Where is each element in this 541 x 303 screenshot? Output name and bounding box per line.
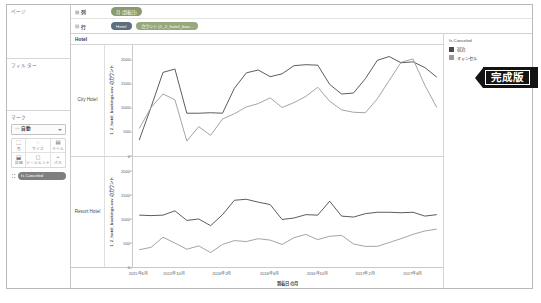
- marks-card-title: マーク: [11, 114, 66, 121]
- y-axis-ticks-top: 0500100015002000: [116, 45, 132, 156]
- marks-label-label: ラベル: [52, 147, 64, 151]
- columns-shelf[interactable]: ⊞ 列 月 (到着日): [71, 5, 532, 19]
- line-series: [139, 57, 437, 141]
- legend-swatch-stay: [449, 47, 454, 52]
- x-axis: 到着日 の月 2015年6月2015年10月2016年2月2016年6月2016…: [71, 267, 443, 288]
- pane-resort-hotel: Resort Hotel 1_2_hotel_bookings.csv のカウン…: [71, 157, 443, 268]
- detail-icon: ⬓: [16, 155, 21, 161]
- mark-type-dropdown[interactable]: 〰 自動: [11, 124, 66, 135]
- y-tick: 2000: [121, 168, 130, 173]
- viz-container: Hotel City Hotel 1_2_hotel_bookings.csv …: [71, 34, 532, 288]
- y-tick: 0: [128, 265, 130, 270]
- line-series: [139, 199, 437, 225]
- rows-icon: ⊟: [75, 23, 79, 29]
- x-tick: 2015年6月: [129, 270, 148, 276]
- marks-label-button[interactable]: ▤ ラベル: [51, 139, 65, 153]
- marks-size-button[interactable]: ◌ サイズ: [26, 139, 51, 153]
- marks-color-button[interactable]: ⬚ 色: [12, 139, 26, 153]
- color-icon: ⬚: [16, 140, 21, 146]
- chevron-down-icon: [58, 129, 62, 131]
- plot-city-hotel[interactable]: [132, 45, 443, 156]
- columns-icon: ⊞: [75, 9, 79, 15]
- rows-shelf-text: 行: [81, 23, 86, 30]
- legend-item-cancel[interactable]: キャンセル: [449, 55, 527, 61]
- shelves: ⊞ 列 月 (到着日) ⊟ 行 Hotel カウント (1_2_hotel_bo…: [71, 5, 532, 34]
- marks-color-label: 色: [17, 147, 21, 151]
- pages-card[interactable]: ページ: [7, 5, 70, 59]
- y-axis-ticks-bottom: 0500100015002000: [116, 157, 132, 268]
- line-mark-icon: 〰: [15, 127, 19, 132]
- x-tick: 2015年10月: [163, 270, 184, 276]
- pill-month-arrival[interactable]: 月 (到着日): [111, 7, 142, 16]
- line-series: [139, 59, 437, 141]
- legend-item-stay[interactable]: 宿泊: [449, 46, 527, 52]
- marks-path-label: パス: [54, 161, 62, 165]
- rows-shelf-label: ⊟ 行: [75, 23, 111, 30]
- marks-detail-label: 詳細: [15, 161, 23, 165]
- marks-detail-button[interactable]: ⬓ 詳細: [12, 153, 26, 167]
- y-tick: 1500: [121, 192, 130, 197]
- x-axis-title: 到着日 の月: [132, 280, 443, 286]
- y-tick: 2000: [121, 57, 130, 62]
- y-tick: 1500: [121, 81, 130, 86]
- pages-card-title: ページ: [11, 8, 66, 15]
- column-header: Hotel: [71, 34, 443, 45]
- marks-color-shelf[interactable]: Is Canceled: [11, 172, 66, 180]
- completed-ribbon: 完成版: [475, 67, 538, 88]
- marks-size-label: サイズ: [32, 147, 44, 151]
- y-axis-title-top-text: 1_2_hotel_bookings.csv のカウント: [108, 65, 114, 135]
- marks-tooltip-label: ツールヒント: [26, 161, 50, 165]
- rows-pills: Hotel カウント (1_2_hotel_boo...: [111, 22, 198, 31]
- marks-path-button[interactable]: ⌁ パス: [51, 153, 65, 167]
- legend-swatch-cancel: [449, 55, 454, 60]
- path-icon: ⌁: [56, 155, 59, 161]
- legend-label-cancel: キャンセル: [457, 55, 477, 61]
- ribbon-body: 完成版: [483, 67, 538, 88]
- ribbon-tail-icon: [475, 68, 483, 88]
- x-tick: 2016年2月: [212, 270, 231, 276]
- column-header-label: Hotel: [75, 37, 87, 42]
- columns-pills: 月 (到着日): [111, 7, 142, 16]
- tableau-window: ページ フィルター マーク 〰 自動 ⬚ 色 ◌ サイズ: [6, 4, 533, 289]
- x-axis-spacer: [71, 268, 132, 288]
- plot-resort-hotel[interactable]: [132, 157, 443, 268]
- pane-city-hotel: City Hotel 1_2_hotel_bookings.csv のカウント …: [71, 45, 443, 157]
- label-icon: ▤: [55, 140, 60, 146]
- row-header-city-hotel: City Hotel: [71, 45, 105, 156]
- legend-title: Is Canceled: [449, 38, 527, 43]
- color-shelf-icon: [11, 173, 16, 179]
- marks-pill-is-canceled[interactable]: Is Canceled: [18, 172, 66, 180]
- y-axis-title-bottom-text: 1_2_hotel_bookings.csv のカウント: [108, 177, 114, 247]
- legend-area: Is Canceled 宿泊 キャンセル 完成版: [444, 34, 532, 288]
- columns-shelf-text: 列: [81, 8, 86, 15]
- x-tick: 2017年6月: [403, 270, 422, 276]
- marks-tooltip-button[interactable]: ◻ ツールヒント: [26, 153, 51, 167]
- pill-count-bookings[interactable]: カウント (1_2_hotel_boo...: [136, 22, 199, 31]
- filters-card[interactable]: フィルター: [7, 59, 70, 111]
- sidebar: ページ フィルター マーク 〰 自動 ⬚ 色 ◌ サイズ: [7, 5, 71, 288]
- ribbon-text: 完成版: [491, 72, 524, 83]
- y-axis-title-top: 1_2_hotel_bookings.csv のカウント: [105, 45, 116, 156]
- marks-buttons: ⬚ 色 ◌ サイズ ▤ ラベル ⬓ 詳細 ◻ ツールヒント: [11, 138, 66, 168]
- y-tick: 500: [123, 240, 130, 245]
- filters-card-title: フィルター: [11, 62, 66, 69]
- tooltip-icon: ◻: [36, 155, 41, 161]
- columns-shelf-label: ⊞ 列: [75, 8, 111, 15]
- viz-canvas: Hotel City Hotel 1_2_hotel_bookings.csv …: [71, 34, 444, 288]
- rows-shelf[interactable]: ⊟ 行 Hotel カウント (1_2_hotel_boo...: [71, 19, 532, 33]
- main-area: ⊞ 列 月 (到着日) ⊟ 行 Hotel カウント (1_2_hotel_bo…: [71, 5, 532, 288]
- y-tick: 1000: [121, 216, 130, 221]
- y-tick: 1000: [121, 105, 130, 110]
- ribbon-inner: 完成版: [485, 70, 530, 85]
- color-legend: Is Canceled 宿泊 キャンセル: [444, 34, 532, 67]
- y-axis-title-bottom: 1_2_hotel_bookings.csv のカウント: [105, 157, 116, 268]
- x-axis-area: 到着日 の月 2015年6月2015年10月2016年2月2016年6月2016…: [132, 268, 443, 288]
- marks-card[interactable]: マーク 〰 自動 ⬚ 色 ◌ サイズ ▤ ラベル: [7, 111, 70, 288]
- panes: City Hotel 1_2_hotel_bookings.csv のカウント …: [71, 45, 443, 267]
- x-tick: 2017年2月: [356, 270, 375, 276]
- legend-label-stay: 宿泊: [457, 46, 465, 52]
- pill-hotel[interactable]: Hotel: [111, 22, 132, 31]
- line-series: [139, 229, 437, 253]
- mark-type-value: 自動: [21, 127, 31, 132]
- y-tick: 500: [123, 129, 130, 134]
